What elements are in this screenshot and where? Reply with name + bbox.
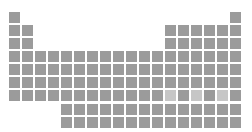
element-cell-b[interactable]: B — [165, 25, 176, 36]
element-cell-co[interactable]: Co — [113, 51, 124, 62]
element-cell-in[interactable]: In — [165, 64, 176, 75]
element-cell-au[interactable]: Au — [139, 77, 150, 88]
element-cell-pu[interactable]: Pu — [126, 117, 137, 128]
element-cell-hg[interactable]: Hg — [152, 77, 163, 88]
element-cell-th[interactable]: Th — [74, 117, 85, 128]
element-cell-es[interactable]: Es — [191, 117, 202, 128]
element-cell-br[interactable]: Br — [217, 51, 228, 62]
element-cell-ra[interactable]: Ra — [22, 90, 33, 101]
element-cell-kr[interactable]: Kr — [230, 51, 241, 62]
element-cell-cl[interactable]: Cl — [217, 38, 228, 49]
element-cell-hf[interactable]: Hf — [48, 77, 59, 88]
element-cell-c[interactable]: C — [178, 25, 189, 36]
element-cell-ne[interactable]: Ne — [230, 25, 241, 36]
element-cell-zn[interactable]: Zn — [152, 51, 163, 62]
element-cell-cd[interactable]: Cd — [152, 64, 163, 75]
element-cell-h[interactable]: H — [9, 12, 20, 23]
element-cell-at[interactable]: At — [217, 77, 228, 88]
element-cell-ac[interactable]: Ac — [61, 117, 72, 128]
element-cell-rb[interactable]: Rb — [9, 64, 20, 75]
element-cell-tm[interactable]: Tm — [217, 104, 228, 115]
element-cell-sb[interactable]: Sb — [191, 64, 202, 75]
element-cell-n[interactable]: N — [191, 25, 202, 36]
element-cell-zr[interactable]: Zr — [48, 64, 59, 75]
element-cell-cn[interactable]: Cn — [152, 90, 163, 101]
element-cell-pb[interactable]: Pb — [178, 77, 189, 88]
element-cell-rn[interactable]: Rn — [230, 77, 241, 88]
element-cell-te[interactable]: Te — [204, 64, 215, 75]
element-cell-p[interactable]: P — [191, 38, 202, 49]
element-cell-cf[interactable]: Cf — [178, 117, 189, 128]
element-cell-al[interactable]: Al — [165, 38, 176, 49]
element-cell-v[interactable]: V — [61, 51, 72, 62]
element-cell-nh[interactable]: Nh — [165, 90, 176, 101]
element-cell-tl[interactable]: Tl — [165, 77, 176, 88]
element-cell-fe[interactable]: Fe — [100, 51, 111, 62]
element-cell-lv[interactable]: Lv — [204, 90, 215, 101]
element-cell-be[interactable]: Be — [22, 25, 33, 36]
element-cell-na[interactable]: Na — [9, 38, 20, 49]
element-cell-po[interactable]: Po — [204, 77, 215, 88]
element-cell-ta[interactable]: Ta — [61, 77, 72, 88]
element-cell-mn[interactable]: Mn — [87, 51, 98, 62]
element-cell-re[interactable]: Re — [87, 77, 98, 88]
element-cell-pt[interactable]: Pt — [126, 77, 137, 88]
element-cell-sn[interactable]: Sn — [178, 64, 189, 75]
element-cell-bi[interactable]: Bi — [191, 77, 202, 88]
element-cell-xe[interactable]: Xe — [230, 64, 241, 75]
element-cell-k[interactable]: K — [9, 51, 20, 62]
element-cell-eu[interactable]: Eu — [139, 104, 150, 115]
element-cell-db[interactable]: Db — [61, 90, 72, 101]
element-cell-lr[interactable]: Lr — [35, 90, 46, 101]
element-cell-rg[interactable]: Rg — [139, 90, 150, 101]
element-cell-fr[interactable]: Fr — [9, 90, 20, 101]
element-cell-fl[interactable]: Fl — [178, 90, 189, 101]
element-cell-nb[interactable]: Nb — [61, 64, 72, 75]
element-cell-pd[interactable]: Pd — [126, 64, 137, 75]
element-cell-ho[interactable]: Ho — [191, 104, 202, 115]
element-cell-pa[interactable]: Pa — [87, 117, 98, 128]
element-cell-hs[interactable]: Hs — [100, 90, 111, 101]
element-cell-o[interactable]: O — [204, 25, 215, 36]
element-cell-ba[interactable]: Ba — [22, 77, 33, 88]
element-cell-mt[interactable]: Mt — [113, 90, 124, 101]
element-cell-ti[interactable]: Ti — [48, 51, 59, 62]
element-cell-he[interactable]: He — [230, 12, 241, 23]
element-cell-cr[interactable]: Cr — [74, 51, 85, 62]
element-cell-sr[interactable]: Sr — [22, 64, 33, 75]
element-cell-mc[interactable]: Mc — [191, 90, 202, 101]
element-cell-mo[interactable]: Mo — [74, 64, 85, 75]
element-cell-no[interactable]: No — [230, 117, 241, 128]
element-cell-ni[interactable]: Ni — [126, 51, 137, 62]
element-cell-cu[interactable]: Cu — [139, 51, 150, 62]
element-cell-nd[interactable]: Nd — [100, 104, 111, 115]
element-cell-tb[interactable]: Tb — [165, 104, 176, 115]
element-cell-bk[interactable]: Bk — [165, 117, 176, 128]
element-cell-yb[interactable]: Yb — [230, 104, 241, 115]
element-cell-ag[interactable]: Ag — [139, 64, 150, 75]
element-cell-w[interactable]: W — [74, 77, 85, 88]
element-cell-ir[interactable]: Ir — [113, 77, 124, 88]
element-cell-la[interactable]: La — [61, 104, 72, 115]
element-cell-ga[interactable]: Ga — [165, 51, 176, 62]
element-cell-i[interactable]: I — [217, 64, 228, 75]
element-cell-u[interactable]: U — [100, 117, 111, 128]
element-cell-pr[interactable]: Pr — [87, 104, 98, 115]
element-cell-er[interactable]: Er — [204, 104, 215, 115]
element-cell-gd[interactable]: Gd — [152, 104, 163, 115]
element-cell-si[interactable]: Si — [178, 38, 189, 49]
element-cell-ca[interactable]: Ca — [22, 51, 33, 62]
element-cell-ar[interactable]: Ar — [230, 38, 241, 49]
element-cell-np[interactable]: Np — [113, 117, 124, 128]
element-cell-bh[interactable]: Bh — [87, 90, 98, 101]
element-cell-rf[interactable]: Rf — [48, 90, 59, 101]
element-cell-fm[interactable]: Fm — [204, 117, 215, 128]
element-cell-pm[interactable]: Pm — [113, 104, 124, 115]
element-cell-os[interactable]: Os — [100, 77, 111, 88]
element-cell-ru[interactable]: Ru — [100, 64, 111, 75]
element-cell-rh[interactable]: Rh — [113, 64, 124, 75]
element-cell-lu[interactable]: Lu — [35, 77, 46, 88]
element-cell-mg[interactable]: Mg — [22, 38, 33, 49]
element-cell-li[interactable]: Li — [9, 25, 20, 36]
element-cell-og[interactable]: Og — [230, 90, 241, 101]
